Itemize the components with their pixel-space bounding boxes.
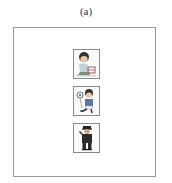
figure-box-3 <box>73 123 100 153</box>
child-with-ball-icon <box>74 87 99 115</box>
caption: (a) <box>0 5 172 17</box>
figure-frame <box>13 27 156 177</box>
figure-box-1 <box>73 49 100 79</box>
figure-box-2 <box>73 86 100 116</box>
police-officer-icon <box>74 124 99 152</box>
child-playing-icon <box>74 50 99 78</box>
